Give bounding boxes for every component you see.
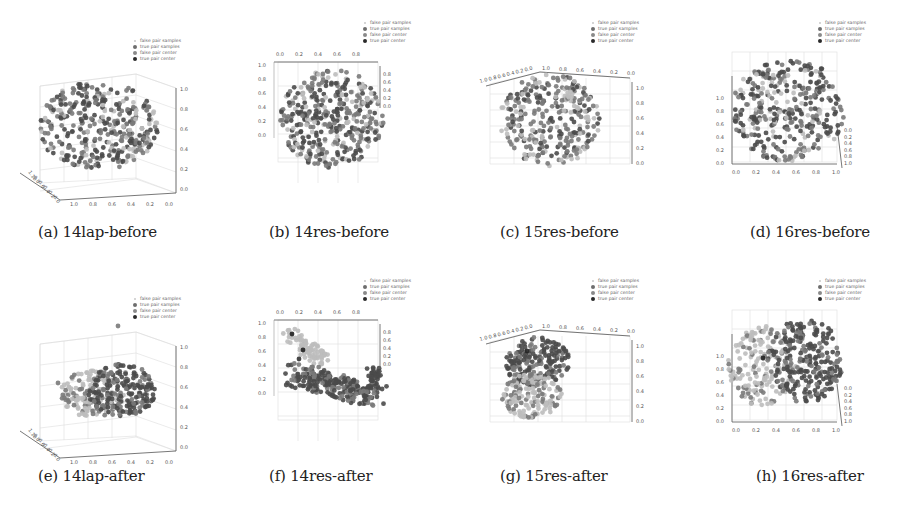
svg-text:0.4: 0.4 xyxy=(636,388,644,394)
svg-text:0.2: 0.2 xyxy=(752,169,760,175)
svg-text:0.2: 0.2 xyxy=(716,147,724,153)
subfigure-h: 0.00.20.40.60.81.00.00.20.40.60.81.00.00… xyxy=(690,266,919,466)
svg-text:0.4: 0.4 xyxy=(506,69,515,77)
svg-text:0.2: 0.2 xyxy=(636,145,644,151)
svg-text:0.8: 0.8 xyxy=(89,201,97,207)
svg-text:1.0: 1.0 xyxy=(479,334,488,342)
svg-text:0.0: 0.0 xyxy=(258,390,266,396)
legend-marker-icon xyxy=(591,297,595,301)
svg-text:0.2: 0.2 xyxy=(844,392,852,398)
svg-text:0.8: 0.8 xyxy=(383,71,391,77)
svg-text:0.8: 0.8 xyxy=(559,324,567,330)
svg-text:1.0: 1.0 xyxy=(542,323,550,329)
subfigure-d: 0.00.20.40.60.81.00.00.20.40.60.81.00.00… xyxy=(690,8,919,208)
scatter-3d-plot: 0.00.20.40.60.80.00.20.40.60.81.00.00.20… xyxy=(230,266,459,466)
svg-text:1.0: 1.0 xyxy=(716,95,724,101)
scatter-3d-plot: 1.00.80.60.40.20.01.00.80.60.40.20.00.00… xyxy=(460,8,689,208)
svg-text:0.4: 0.4 xyxy=(593,326,601,332)
scatter-3d-plot: 0.00.20.40.60.80.00.20.40.60.81.00.00.20… xyxy=(230,8,459,208)
legend-marker-icon xyxy=(591,291,595,295)
svg-text:0.0: 0.0 xyxy=(276,309,284,315)
legend-marker-icon xyxy=(363,297,367,301)
svg-text:0.8: 0.8 xyxy=(812,169,820,175)
svg-text:0.0: 0.0 xyxy=(52,452,61,462)
svg-text:0.2: 0.2 xyxy=(636,403,644,409)
svg-text:0.4: 0.4 xyxy=(844,140,852,146)
svg-text:0.6: 0.6 xyxy=(792,427,800,433)
legend-marker-icon xyxy=(819,280,821,282)
svg-text:1.0: 1.0 xyxy=(258,320,266,326)
svg-text:0.6: 0.6 xyxy=(844,147,852,153)
legend-label: true pair center xyxy=(370,296,405,302)
svg-text:0.6: 0.6 xyxy=(716,379,724,385)
svg-text:0.4: 0.4 xyxy=(314,51,322,57)
svg-text:1.0: 1.0 xyxy=(180,86,188,92)
legend-marker-icon xyxy=(133,309,137,313)
legend-item: true pair center xyxy=(363,296,411,302)
svg-text:0.4: 0.4 xyxy=(593,68,601,74)
svg-text:0.6: 0.6 xyxy=(576,325,584,331)
svg-text:0.6: 0.6 xyxy=(576,67,584,73)
svg-text:0.8: 0.8 xyxy=(844,411,852,417)
svg-text:0.2: 0.2 xyxy=(383,95,391,101)
svg-text:0.6: 0.6 xyxy=(497,330,506,338)
svg-text:1.0: 1.0 xyxy=(832,427,840,433)
legend-marker-icon xyxy=(591,27,595,31)
svg-text:0.2: 0.2 xyxy=(295,309,303,315)
caption-f: (f) 14res-after xyxy=(269,467,373,485)
svg-text:0.4: 0.4 xyxy=(383,345,391,351)
svg-text:0.0: 0.0 xyxy=(844,385,852,391)
svg-text:0.6: 0.6 xyxy=(180,126,188,132)
legend-marker-icon xyxy=(133,303,137,307)
svg-text:0.8: 0.8 xyxy=(636,100,644,106)
svg-text:0.4: 0.4 xyxy=(258,104,266,110)
svg-text:0.6: 0.6 xyxy=(108,201,116,207)
svg-text:1.0: 1.0 xyxy=(844,160,852,166)
svg-text:0.4: 0.4 xyxy=(506,327,515,335)
svg-text:0.6: 0.6 xyxy=(180,384,188,390)
svg-text:0.0: 0.0 xyxy=(732,169,740,175)
svg-text:0.4: 0.4 xyxy=(180,404,188,410)
subfigure-a: 0.00.20.40.60.81.01.00.80.60.40.20.01.10… xyxy=(0,8,229,208)
svg-text:0.2: 0.2 xyxy=(610,327,618,333)
caption-a: (a) 14lap-before xyxy=(38,223,157,241)
legend-marker-icon xyxy=(363,27,367,31)
svg-text:0.8: 0.8 xyxy=(258,334,266,340)
svg-text:0.0: 0.0 xyxy=(524,323,533,331)
legend-marker-icon xyxy=(818,291,822,295)
svg-text:0.0: 0.0 xyxy=(524,65,533,73)
svg-text:0.0: 0.0 xyxy=(276,51,284,57)
svg-text:1.0: 1.0 xyxy=(542,65,550,71)
legend-marker-icon xyxy=(363,39,367,43)
svg-text:0.4: 0.4 xyxy=(314,309,322,315)
subfigure-g: 1.00.80.60.40.20.01.00.80.60.40.20.00.00… xyxy=(460,266,689,466)
svg-text:0.6: 0.6 xyxy=(844,405,852,411)
svg-text:0.8: 0.8 xyxy=(716,108,724,114)
legend: false pair samplestrue pair samplesfalse… xyxy=(591,20,639,44)
legend-label: true pair center xyxy=(598,296,633,302)
svg-text:0.8: 0.8 xyxy=(180,364,188,370)
legend-item: true pair center xyxy=(133,56,181,62)
svg-text:0.0: 0.0 xyxy=(636,418,644,424)
legend-marker-icon xyxy=(819,22,821,24)
svg-text:0.2: 0.2 xyxy=(258,376,266,382)
subfigure-e: 0.00.20.40.60.81.01.00.80.60.40.20.01.10… xyxy=(0,266,229,466)
svg-text:1.0: 1.0 xyxy=(636,85,644,91)
svg-text:0.2: 0.2 xyxy=(180,424,188,430)
svg-text:0.2: 0.2 xyxy=(295,51,303,57)
legend-marker-icon xyxy=(363,291,367,295)
svg-text:0.6: 0.6 xyxy=(792,169,800,175)
legend-marker-icon xyxy=(363,285,367,289)
svg-text:0.2: 0.2 xyxy=(610,69,618,75)
legend-label: true pair center xyxy=(598,38,633,44)
svg-text:0.8: 0.8 xyxy=(636,358,644,364)
svg-text:0.0: 0.0 xyxy=(383,103,391,109)
svg-text:0.0: 0.0 xyxy=(627,328,635,334)
scatter-3d-plot: 0.00.20.40.60.81.01.00.80.60.40.20.01.10… xyxy=(0,266,229,466)
svg-text:1.0: 1.0 xyxy=(716,353,724,359)
legend: false pair samplestrue pair samplesfalse… xyxy=(363,278,411,302)
legend-marker-icon xyxy=(591,33,595,37)
svg-text:0.8: 0.8 xyxy=(559,66,567,72)
svg-text:0.0: 0.0 xyxy=(627,70,635,76)
svg-text:0.6: 0.6 xyxy=(497,72,506,80)
